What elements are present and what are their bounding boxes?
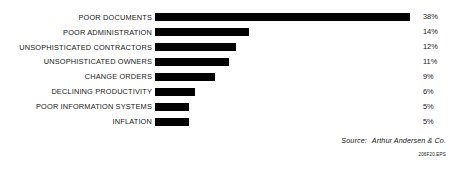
bar [155, 43, 236, 51]
category-label: INFLATION [0, 118, 155, 125]
value-label: 12% [423, 44, 438, 51]
bar-area: 11% [155, 55, 455, 70]
bar [155, 13, 410, 21]
bar-chart: POOR DOCUMENTS38%POOR ADMINISTRATION14%U… [0, 0, 455, 171]
source-value: Arthur Andersen & Co. [372, 136, 446, 145]
chart-row: POOR INFORMATION SYSTEMS5% [0, 99, 455, 114]
chart-row: INFLATION5% [0, 114, 455, 129]
category-label: POOR INFORMATION SYSTEMS [0, 103, 155, 110]
eps-code: 206F20.EPS [418, 152, 446, 157]
bar [155, 28, 249, 36]
bar-area: 14% [155, 25, 455, 40]
value-label: 6% [423, 88, 434, 95]
value-label: 38% [423, 14, 438, 21]
category-label: POOR DOCUMENTS [0, 14, 155, 21]
bar [155, 88, 195, 96]
bar-area: 9% [155, 70, 455, 85]
bar [155, 73, 215, 81]
bar-area: 12% [155, 40, 455, 55]
bar [155, 118, 189, 126]
category-label: DECLINING PRODUCTIVITY [0, 88, 155, 95]
value-label: 11% [423, 58, 437, 65]
value-label: 5% [423, 118, 434, 125]
value-label: 5% [423, 103, 434, 110]
chart-row: CHANGE ORDERS9% [0, 70, 455, 85]
source-note: Source:Arthur Andersen & Co. [341, 136, 446, 145]
category-label: CHANGE ORDERS [0, 73, 155, 80]
chart-row: DECLINING PRODUCTIVITY6% [0, 84, 455, 99]
chart-row: POOR ADMINISTRATION14% [0, 25, 455, 40]
chart-row: POOR DOCUMENTS38% [0, 10, 455, 25]
bar-area: 5% [155, 114, 455, 129]
value-label: 9% [423, 73, 434, 80]
bar [155, 58, 229, 66]
bar-area: 38% [155, 10, 455, 25]
chart-rows: POOR DOCUMENTS38%POOR ADMINISTRATION14%U… [0, 10, 455, 129]
chart-row: UNSOPHISTICATED CONTRACTORS12% [0, 40, 455, 55]
category-label: UNSOPHISTICATED CONTRACTORS [0, 44, 155, 51]
chart-row: UNSOPHISTICATED OWNERS11% [0, 55, 455, 70]
bar-area: 6% [155, 84, 455, 99]
bar-area: 5% [155, 99, 455, 114]
bar [155, 103, 189, 111]
source-label: Source: [341, 136, 366, 145]
category-label: UNSOPHISTICATED OWNERS [0, 58, 155, 65]
value-label: 14% [423, 29, 438, 36]
category-label: POOR ADMINISTRATION [0, 29, 155, 36]
